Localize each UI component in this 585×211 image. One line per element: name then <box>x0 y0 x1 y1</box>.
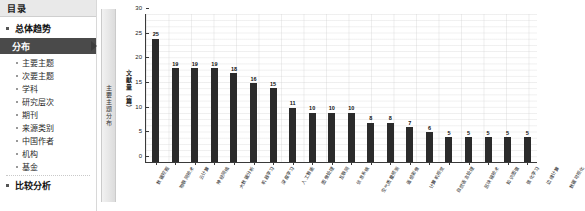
bar-column[interactable]: 6 <box>420 14 440 162</box>
bar-column[interactable]: 19 <box>185 14 205 162</box>
bar[interactable] <box>406 127 413 162</box>
bar-value-label: 5 <box>506 131 509 137</box>
y-axis-tick: 5 <box>139 128 146 134</box>
sidebar-item-label: 机构 <box>22 148 38 159</box>
bar-column[interactable]: 8 <box>381 14 401 162</box>
bar-value-label: 25 <box>153 32 159 38</box>
bar-column[interactable]: 15 <box>263 14 283 162</box>
sidebar-item-label: 总体趋势 <box>15 22 51 35</box>
sidebar-item-discipline[interactable]: 学科 <box>0 82 96 95</box>
bar-value-label: 6 <box>428 126 431 132</box>
y-axis-tick: 10 <box>135 104 146 110</box>
sidebar-header: 目录 <box>0 0 96 17</box>
sidebar-item-primary-topic[interactable]: 主要主题 <box>0 56 96 69</box>
bar[interactable] <box>387 123 394 162</box>
sidebar-item-comparative-analysis[interactable]: 比较分析 <box>0 177 96 194</box>
plot-area: 2519191918161511101010887655555 05101520… <box>145 14 537 163</box>
dot-icon <box>16 140 18 142</box>
bar-column[interactable]: 16 <box>244 14 264 162</box>
sidebar-item-label: 基金 <box>22 161 38 172</box>
bar-column[interactable]: 5 <box>498 14 518 162</box>
dot-icon <box>16 166 18 168</box>
bar[interactable] <box>504 137 511 162</box>
bar[interactable] <box>426 132 433 162</box>
dot-icon <box>16 101 18 103</box>
bar-column[interactable]: 19 <box>205 14 225 162</box>
sidebar-item-research-level[interactable]: 研究层次 <box>0 95 96 108</box>
sidebar: 目录 总体趋势 分布 主要主题 次要主题 学科 <box>0 0 97 211</box>
bar[interactable] <box>309 113 316 162</box>
bar-column[interactable]: 7 <box>400 14 420 162</box>
bar-value-label: 11 <box>290 101 296 107</box>
x-axis-labels: 数据挖掘物联网技术云计算神经网络大数据分析机器学习深度学习人工智能图像处理互联网… <box>145 163 537 211</box>
sidebar-item-distribution[interactable]: 分布 <box>0 38 96 54</box>
sidebar-item-label: 期刊 <box>22 109 38 120</box>
dot-icon <box>16 153 18 155</box>
bar-value-label: 5 <box>467 131 470 137</box>
bar-value-label: 10 <box>329 106 335 112</box>
bar-column[interactable]: 25 <box>146 14 166 162</box>
bar[interactable] <box>230 73 237 162</box>
bar-column[interactable]: 19 <box>166 14 186 162</box>
bar[interactable] <box>250 83 257 162</box>
bar-value-label: 10 <box>309 106 315 112</box>
bullet-icon <box>6 27 9 30</box>
y-axis-tick: 15 <box>135 79 146 85</box>
chevron-right-icon <box>91 41 97 51</box>
x-axis-label: 数据可视化 <box>568 165 585 190</box>
sidebar-item-fund[interactable]: 基金 <box>0 160 96 173</box>
bar-value-label: 18 <box>231 67 237 73</box>
bar[interactable] <box>289 108 296 162</box>
y-axis-tick: 0 <box>139 153 146 159</box>
sidebar-item-institution[interactable]: 机构 <box>0 147 96 160</box>
bar[interactable] <box>465 137 472 162</box>
vertical-tab-primary-topic-distribution[interactable]: 主要主题分布 <box>101 9 116 202</box>
bar-value-label: 7 <box>408 121 411 127</box>
bar[interactable] <box>172 68 179 162</box>
sidebar-item-journal[interactable]: 期刊 <box>0 108 96 121</box>
sidebar-item-label: 主要主题 <box>22 57 54 68</box>
sidebar-item-source-category[interactable]: 来源类别 <box>0 121 96 134</box>
sidebar-item-overall-trend[interactable]: 总体趋势 <box>0 20 96 37</box>
bullet-icon <box>6 184 9 187</box>
bar-value-label: 10 <box>348 106 354 112</box>
dot-icon <box>16 62 18 64</box>
bar[interactable] <box>524 137 531 162</box>
y-axis-tick: 30 <box>135 5 146 11</box>
bar[interactable] <box>211 68 218 162</box>
dot-icon <box>16 88 18 90</box>
bar-column[interactable]: 18 <box>224 14 244 162</box>
sidebar-item-label: 分布 <box>12 40 30 53</box>
bar-value-label: 15 <box>270 82 276 88</box>
bar-column[interactable]: 10 <box>322 14 342 162</box>
sidebar-item-label: 次要主题 <box>22 70 54 81</box>
dot-icon <box>16 75 18 77</box>
chart-panel: 文献量（篇） 2519191918161511101010887655555 0… <box>116 0 543 211</box>
bar-column[interactable]: 5 <box>439 14 459 162</box>
bar-value-label: 19 <box>172 62 178 68</box>
sidebar-item-secondary-topic[interactable]: 次要主题 <box>0 69 96 82</box>
bar-column[interactable]: 10 <box>302 14 322 162</box>
dot-icon <box>16 114 18 116</box>
bar[interactable] <box>348 113 355 162</box>
bar[interactable] <box>270 88 277 162</box>
bar[interactable] <box>367 123 374 162</box>
bar[interactable] <box>152 39 159 162</box>
sidebar-item-label: 研究层次 <box>22 96 54 107</box>
bar-column[interactable]: 10 <box>341 14 361 162</box>
sidebar-body: 总体趋势 分布 主要主题 次要主题 学科 研究层次 <box>0 17 96 194</box>
sidebar-item-chinese-author[interactable]: 中国作者 <box>0 134 96 147</box>
bar-column[interactable]: 5 <box>478 14 498 162</box>
bar[interactable] <box>445 137 452 162</box>
sidebar-item-label: 学科 <box>22 83 38 94</box>
bar-column[interactable]: 5 <box>459 14 479 162</box>
bar[interactable] <box>485 137 492 162</box>
bar[interactable] <box>328 113 335 162</box>
bar-column[interactable]: 5 <box>517 14 537 162</box>
bar-value-label: 5 <box>447 131 450 137</box>
bar-value-label: 19 <box>211 62 217 68</box>
bar[interactable] <box>191 68 198 162</box>
bar-column[interactable]: 11 <box>283 14 303 162</box>
bar-value-label: 8 <box>369 116 372 122</box>
bar-column[interactable]: 8 <box>361 14 381 162</box>
